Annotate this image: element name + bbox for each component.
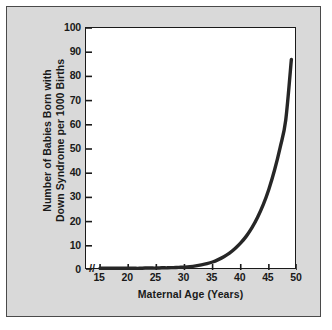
plot-area	[85, 27, 296, 269]
y-axis-title-line-1: Number of Babies Born with	[41, 20, 54, 262]
plot-svg	[86, 28, 297, 270]
y-axis-title: Number of Babies Born with Down Syndrome…	[41, 20, 66, 262]
x-tick-label: 30	[170, 272, 196, 283]
data-series-curve	[100, 59, 291, 268]
x-tick-label: 20	[114, 272, 140, 283]
y-axis-ticks	[86, 28, 92, 270]
x-axis-title: Maternal Age (Years)	[85, 288, 296, 300]
x-tick-label: 50	[283, 272, 309, 283]
x-axis-tick-labels: 1520253035404550	[0, 272, 332, 288]
x-tick-label: 45	[255, 272, 281, 283]
x-tick-label: 35	[199, 272, 225, 283]
x-axis-break-marker: //	[89, 262, 103, 274]
y-axis-title-line-2: Down Syndrome per 1000 Births	[53, 20, 66, 262]
x-tick-label: 40	[227, 272, 253, 283]
x-tick-label: 25	[142, 272, 168, 283]
figure-root: 1009080706050403020100 1520253035404550 …	[0, 0, 332, 330]
